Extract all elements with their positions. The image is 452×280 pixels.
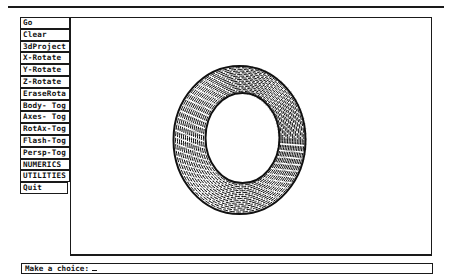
menu-item-flash-toggle[interactable]: Flash-Tog	[20, 135, 70, 147]
menu-item-body-toggle[interactable]: Body- Tog	[20, 100, 70, 112]
menu-item-3dproject[interactable]: 3dProject	[20, 41, 70, 53]
prompt-text: Make a choice:	[25, 264, 89, 273]
menu-item-axes-toggle[interactable]: Axes- Tog	[20, 111, 70, 123]
text-cursor	[92, 264, 97, 271]
menu-item-rotation-axis-toggle[interactable]: RotAx-Tog	[20, 123, 70, 135]
command-menu: Go Clear 3dProject X-Rotate Y-Rotate Z-R…	[20, 17, 70, 194]
menu-item-perspective-toggle[interactable]: Persp-Tog	[20, 147, 70, 159]
drawing-canvas[interactable]	[70, 17, 432, 256]
menu-item-utilities[interactable]: UTILITIES	[20, 170, 70, 182]
menu-item-numerics[interactable]: NUMERICS	[20, 159, 70, 171]
menu-item-x-rotate[interactable]: X-Rotate	[20, 52, 70, 64]
menu-item-y-rotate[interactable]: Y-Rotate	[20, 64, 70, 76]
top-divider	[8, 6, 444, 8]
menu-item-clear[interactable]: Clear	[20, 29, 70, 41]
menu-item-z-rotate[interactable]: Z-Rotate	[20, 76, 70, 88]
menu-item-go[interactable]: Go	[20, 17, 70, 29]
menu-item-quit[interactable]: Quit	[20, 182, 68, 194]
torus-wireframe	[71, 18, 433, 257]
command-prompt[interactable]: Make a choice:	[21, 263, 433, 274]
menu-item-erase-rotation[interactable]: EraseRota	[20, 88, 70, 100]
